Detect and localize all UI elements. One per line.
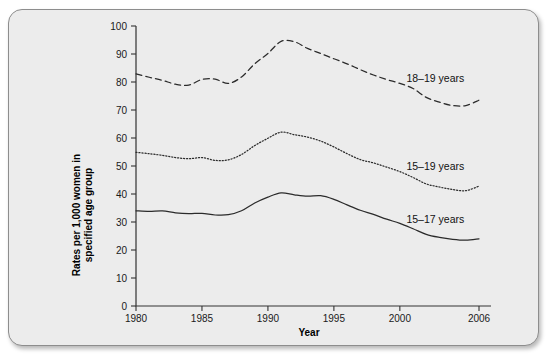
series-label: 15–19 years xyxy=(406,160,464,172)
y-tick-label: 80 xyxy=(116,77,128,88)
y-tick-label: 10 xyxy=(116,273,128,284)
y-tick-label: 0 xyxy=(121,301,127,312)
series-label: 15–17 years xyxy=(406,213,464,225)
x-tick-label: 1985 xyxy=(191,313,214,324)
x-tick-label: 2000 xyxy=(389,313,412,324)
series-label: 18–19 years xyxy=(406,72,464,84)
y-tick-label: 60 xyxy=(116,133,128,144)
x-tick-label: 2006 xyxy=(468,313,491,324)
y-tick-label: 20 xyxy=(116,245,128,256)
data-series xyxy=(136,40,479,240)
figure-root: 1009080706050403020100 19801985199019952… xyxy=(0,0,555,361)
x-tick-label: 1980 xyxy=(125,313,148,324)
y-tick-label: 40 xyxy=(116,189,128,200)
y-tick-label: 50 xyxy=(116,161,128,172)
x-tick-label: 1990 xyxy=(257,313,280,324)
y-tick-label: 70 xyxy=(116,105,128,116)
x-axis-tick-labels: 198019851990199520002006 xyxy=(125,313,491,324)
x-tick-label: 1995 xyxy=(323,313,346,324)
y-tick-label: 90 xyxy=(116,49,128,60)
y-axis-title-line1: Rates per 1,000 women in xyxy=(71,154,82,276)
y-tick-label: 100 xyxy=(110,21,127,32)
series-annotations: 18–19 years15–19 years15–17 years xyxy=(406,72,464,225)
y-axis-title-line2: specified age group xyxy=(83,168,94,262)
y-tick-label: 30 xyxy=(116,217,128,228)
x-axis-title: Year xyxy=(298,327,319,338)
chart-card: 1009080706050403020100 19801985199019952… xyxy=(8,9,539,346)
line-chart: 1009080706050403020100 19801985199019952… xyxy=(9,10,538,345)
y-axis-tick-labels: 1009080706050403020100 xyxy=(110,21,127,312)
